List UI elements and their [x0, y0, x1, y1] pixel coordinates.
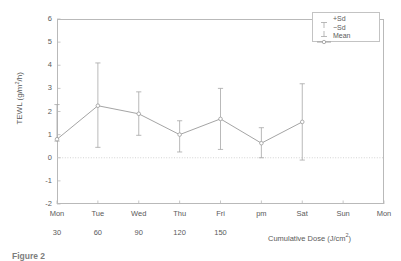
y-axis-title: TEWL (g/m2/h) [14, 43, 25, 153]
x-tick-label: Tue [75, 209, 121, 218]
legend: +Sd −Sd Mean [312, 12, 380, 42]
legend-label-plus-sd: +Sd [333, 15, 346, 23]
x-tick-label: Thu [157, 209, 203, 218]
y-tick-label: 2 [30, 108, 52, 116]
dose-label: 30 [34, 228, 80, 237]
dose-label: 150 [198, 228, 244, 237]
y-tick-label: 5 [30, 38, 52, 46]
legend-label-minus-sd: −Sd [333, 24, 346, 32]
data-point [137, 112, 141, 116]
x-tick-label: Sat [279, 209, 325, 218]
y-tick-label: 6 [30, 15, 52, 23]
figure-container: 6543210-1-2 TEWL (g/m2/h) MonTueWedThuFr… [0, 0, 401, 261]
legend-label-mean: Mean [333, 32, 351, 40]
data-point [178, 133, 182, 137]
y-tick-label: 4 [30, 61, 52, 69]
data-point [260, 141, 264, 145]
data-point [55, 137, 59, 141]
y-tick-label: 3 [30, 84, 52, 92]
y-tick-label: -2 [30, 200, 52, 208]
x-tick-label: pm [238, 209, 284, 218]
legend-item-mean: Mean [316, 32, 379, 41]
y-tick-label: 1 [30, 131, 52, 139]
y-axis-tick-marks [57, 19, 61, 204]
data-point [96, 104, 100, 108]
y-tick-label: -1 [30, 177, 52, 185]
x-tick-label: Wed [116, 209, 162, 218]
mean-key-icon [316, 32, 332, 40]
figure-caption: Figure 2 [12, 251, 45, 261]
data-point [219, 117, 223, 121]
x-axis-title: Cumulative Dose (J/cm2) [268, 232, 351, 243]
data-point [300, 120, 304, 124]
error-bars [54, 63, 304, 160]
x-tick-label: Fri [198, 209, 244, 218]
minus-sd-key-icon [316, 24, 332, 32]
dose-label: 120 [157, 228, 203, 237]
y-tick-label: 0 [30, 154, 52, 162]
plus-sd-key-icon [316, 15, 332, 23]
legend-item-minus-sd: −Sd [316, 24, 379, 33]
x-tick-label: Mon [34, 209, 80, 218]
x-tick-label: Sun [320, 209, 366, 218]
legend-item-plus-sd: +Sd [316, 15, 379, 24]
dose-label: 90 [116, 228, 162, 237]
x-tick-label: Mon [361, 209, 401, 218]
dose-label: 60 [75, 228, 121, 237]
x-axis-tick-marks [57, 201, 384, 205]
